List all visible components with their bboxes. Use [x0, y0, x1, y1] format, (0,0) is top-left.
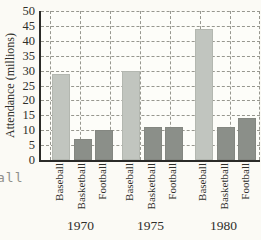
y-tick-45: 45	[0, 19, 37, 33]
gridline-y-15	[41, 115, 260, 116]
bar-1975-football	[165, 127, 183, 160]
bar-label-1970-baseball: Baseball	[53, 163, 65, 201]
year-label-1970: 1970	[59, 218, 103, 234]
scanned-chart-page: all Attendance (millions) 05101520253035…	[0, 0, 261, 240]
y-tick-40: 40	[0, 34, 37, 48]
bar-1980-football	[238, 118, 256, 160]
gridline-x-3	[140, 11, 141, 160]
gridline-x-1	[80, 11, 81, 160]
bar-label-1980-football: Football	[239, 163, 251, 200]
bar-1975-basketball	[144, 127, 162, 160]
gridline-x-0	[50, 11, 51, 160]
year-label-1980: 1980	[202, 218, 246, 234]
y-tick-20: 20	[0, 93, 37, 107]
bar-label-1975-baseball: Baseball	[123, 163, 135, 201]
bar-1980-basketball	[217, 127, 235, 160]
y-tick-50: 50	[0, 4, 37, 18]
bar-label-1970-football: Football	[96, 163, 108, 200]
gridline-y-20	[41, 100, 260, 101]
y-tick-0: 0	[0, 153, 37, 167]
bar-1970-baseball	[52, 74, 70, 160]
y-tick-5: 5	[0, 138, 37, 152]
gridline-y-50	[41, 11, 260, 12]
bar-label-1980-basketball: Basketball	[218, 163, 230, 209]
y-tick-35: 35	[0, 49, 37, 63]
bar-1970-basketball	[74, 139, 92, 160]
gridline-y-45	[41, 26, 260, 27]
plot-area	[39, 11, 260, 162]
bar-1975-baseball	[122, 71, 140, 160]
y-tick-30: 30	[0, 64, 37, 78]
bar-label-1975-football: Football	[166, 163, 178, 200]
bar-label-1975-basketball: Basketball	[145, 163, 157, 209]
bar-label-1970-basketball: Basketball	[75, 163, 87, 209]
year-label-1975: 1975	[129, 218, 173, 234]
gridline-y-25	[41, 86, 260, 87]
cropped-margin-text: all	[0, 170, 23, 185]
gridline-y-35	[41, 56, 260, 57]
bar-1970-football	[95, 130, 113, 160]
gridline-x-7	[259, 11, 260, 160]
y-tick-25: 25	[0, 79, 37, 93]
gridline-y-40	[41, 41, 260, 42]
bar-1980-baseball	[195, 29, 213, 160]
y-tick-15: 15	[0, 108, 37, 122]
gridline-y-30	[41, 71, 260, 72]
bar-label-1980-baseball: Baseball	[196, 163, 208, 201]
y-tick-10: 10	[0, 123, 37, 137]
